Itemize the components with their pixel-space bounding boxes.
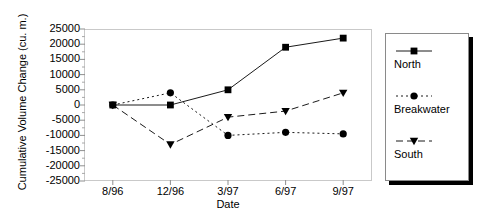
data-point	[167, 89, 174, 96]
data-point	[224, 114, 232, 121]
x-axis-tick-label: 9/97	[313, 185, 373, 197]
series-north	[109, 35, 346, 109]
x-axis-tick-label: 6/97	[256, 185, 316, 197]
data-point	[167, 102, 174, 109]
x-axis-title: Date	[84, 198, 372, 210]
legend-marker-circle-icon	[386, 89, 470, 103]
x-axis-tick-label: 12/96	[140, 185, 200, 197]
data-point	[340, 35, 347, 42]
legend-entry-south[interactable]: South	[386, 134, 470, 161]
legend-shadow-bottom	[389, 181, 473, 185]
data-point	[225, 86, 232, 93]
series-south	[109, 90, 348, 149]
legend-marker-triangle-down-icon	[386, 134, 470, 148]
data-point	[282, 44, 289, 51]
series-line	[113, 38, 343, 105]
chart-legend[interactable]: NorthBreakwaterSouth	[385, 33, 469, 181]
data-point	[339, 90, 347, 97]
data-point	[340, 130, 347, 137]
data-point	[282, 129, 289, 136]
legend-marker-square-icon	[386, 44, 470, 58]
x-axis-tick-label: 3/97	[198, 185, 258, 197]
x-axis-tick-label: 8/96	[83, 185, 143, 197]
legend-label: South	[386, 148, 470, 161]
chart-figure: Cumulative Volume Change (cu. m.) 250002…	[0, 0, 483, 218]
legend-label: North	[386, 58, 470, 71]
legend-label: Breakwater	[386, 103, 470, 116]
data-point	[166, 141, 174, 148]
chart-plot-series	[84, 29, 372, 181]
data-point	[224, 132, 231, 139]
legend-entry-breakwater[interactable]: Breakwater	[386, 89, 470, 116]
legend-entry-north[interactable]: North	[386, 44, 470, 71]
